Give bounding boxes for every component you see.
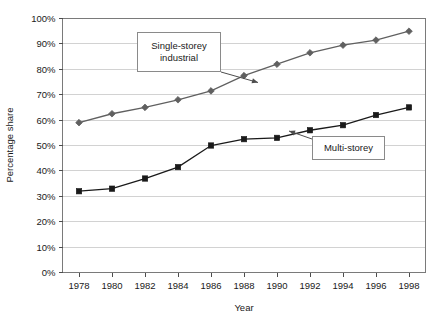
y-tick-label: 80% (36, 64, 56, 75)
data-point-marker (340, 122, 345, 127)
chart-container: 0%10%20%30%40%50%60%70%80%90%100% 197819… (0, 0, 439, 323)
y-tick-label: 50% (36, 140, 56, 151)
x-tick-label: 1978 (68, 280, 89, 291)
x-axis-tick-labels: 1978198019821984198619881990199219941996… (68, 280, 419, 291)
y-tick-label: 20% (36, 216, 56, 227)
data-point-marker (307, 128, 312, 133)
line-chart: 0%10%20%30%40%50%60%70%80%90%100% 197819… (0, 0, 439, 323)
data-point-marker (109, 186, 114, 191)
x-tick-label: 1994 (332, 280, 353, 291)
data-point-marker (208, 143, 213, 148)
y-tick-label: 70% (36, 89, 56, 100)
y-tick-label: 10% (36, 242, 56, 253)
y-axis-title-label: Percentage share (4, 108, 15, 183)
y-axis-title: Percentage share (4, 108, 15, 183)
y-tick-label: 60% (36, 115, 56, 126)
y-tick-label: 90% (36, 38, 56, 49)
x-tick-label: 1988 (233, 280, 254, 291)
annotation-single-storey-text: Single-storey (151, 40, 207, 51)
data-point-marker (142, 176, 147, 181)
x-tick-label: 1986 (200, 280, 221, 291)
y-tick-label: 100% (31, 13, 56, 24)
x-tick-label: 1996 (365, 280, 386, 291)
data-point-marker (175, 164, 180, 169)
y-tick-label: 30% (36, 191, 56, 202)
x-tick-label: 1992 (299, 280, 320, 291)
data-point-marker (241, 136, 246, 141)
x-tick-label: 1980 (101, 280, 122, 291)
data-point-marker (76, 189, 81, 194)
y-tick-label: 0% (42, 267, 56, 278)
annotation-multi-storey-text: Multi-storey (324, 142, 373, 153)
annotation-single-storey-text: industrial (160, 52, 198, 63)
x-tick-label: 1982 (134, 280, 155, 291)
x-tick-label: 1990 (266, 280, 287, 291)
data-point-marker (406, 105, 411, 110)
x-axis-title-label: Year (234, 302, 253, 313)
y-tick-label: 40% (36, 165, 56, 176)
x-tick-label: 1984 (167, 280, 188, 291)
x-tick-label: 1998 (398, 280, 419, 291)
x-axis-title: Year (234, 302, 253, 313)
data-point-marker (373, 112, 378, 117)
data-point-marker (274, 135, 279, 140)
